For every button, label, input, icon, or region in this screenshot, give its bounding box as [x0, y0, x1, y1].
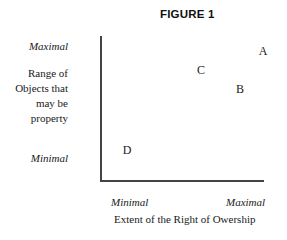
data-point-c: C — [197, 63, 205, 78]
y-axis-title-line: may be — [15, 96, 68, 111]
x-axis-min-label: Minimal — [111, 196, 148, 208]
y-axis-max-label: Maximal — [29, 40, 68, 52]
x-axis-title: Extent of the Right of Owership — [114, 213, 255, 225]
y-axis-title: Range of Objects that may be property — [15, 66, 68, 126]
y-axis-title-line: Range of — [15, 66, 68, 81]
data-point-d: D — [123, 143, 132, 158]
y-axis-min-label: Minimal — [31, 152, 68, 164]
data-point-a: A — [259, 44, 268, 59]
x-axis-max-label: Maximal — [226, 196, 265, 208]
y-axis-line — [100, 36, 102, 181]
x-axis-line — [100, 180, 264, 182]
data-point-b: B — [236, 82, 244, 97]
y-axis-title-line: property — [15, 111, 68, 126]
y-axis-title-line: Objects that — [15, 81, 68, 96]
figure-title: FIGURE 1 — [160, 8, 215, 20]
